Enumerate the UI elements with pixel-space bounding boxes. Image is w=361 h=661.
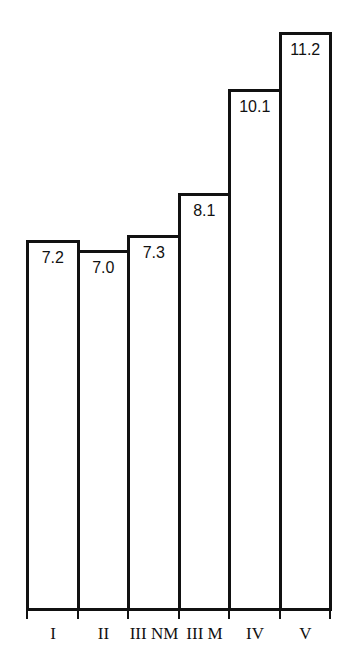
bar-value-label: 10.1 xyxy=(231,98,279,116)
x-axis-category-label: V xyxy=(280,624,332,644)
x-axis-category-label: IV xyxy=(229,624,281,644)
bar-value-label: 7.2 xyxy=(29,249,77,267)
bar: 7.2 xyxy=(26,240,80,611)
bar-chart: 7.2I7.0II7.3III NM8.1III M10.1IV11.2V xyxy=(0,0,361,661)
bar-value-label: 8.1 xyxy=(181,202,229,220)
bar: 8.1 xyxy=(178,193,232,611)
bar: 7.3 xyxy=(127,235,181,611)
bar: 11.2 xyxy=(279,32,333,611)
bar-value-label: 7.3 xyxy=(130,244,178,262)
x-axis-category-label: I xyxy=(27,624,79,644)
x-axis-category-label: II xyxy=(78,624,130,644)
x-axis-category-label: III NM xyxy=(128,624,180,644)
bar-value-label: 11.2 xyxy=(282,41,330,59)
bar-value-label: 7.0 xyxy=(80,259,128,277)
bar: 10.1 xyxy=(228,89,282,611)
x-axis-category-label: III M xyxy=(179,624,231,644)
bar: 7.0 xyxy=(77,250,131,611)
